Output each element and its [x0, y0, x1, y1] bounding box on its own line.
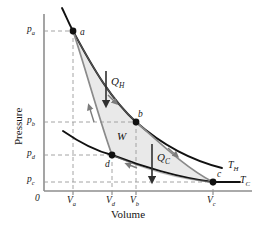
annotation-w: W	[117, 131, 126, 142]
y-tick-pb-sub: b	[32, 120, 35, 127]
state-label-a: a	[80, 28, 85, 38]
state-point-c	[210, 179, 217, 186]
x-tick-vb-sub: b	[136, 200, 139, 207]
x-tick-vc-sub: c	[213, 200, 216, 207]
y-tick-pc-sub: c	[32, 179, 35, 186]
cycle-shaded-region	[73, 31, 213, 182]
x-tick-label-vd: Vd	[106, 196, 115, 207]
state-point-a	[70, 28, 77, 35]
y-tick-label-pa: pa	[27, 25, 35, 36]
x-tick-label-vc: Vc	[207, 196, 216, 207]
w-main: W	[117, 130, 126, 142]
arrowhead-d-to-a	[89, 106, 94, 122]
state-label-b: b	[138, 110, 143, 120]
x-tick-vd-sub: d	[112, 200, 115, 207]
y-tick-pa-sub: a	[32, 29, 35, 36]
qh-main: Q	[111, 75, 119, 87]
isotherm-label-tc: TC	[240, 175, 250, 188]
state-label-d: d	[105, 160, 110, 170]
y-axis-title: Pressure	[13, 108, 24, 145]
x-axis-title: Volume	[111, 209, 145, 220]
state-point-b	[133, 119, 140, 126]
qh-sub: H	[119, 81, 124, 90]
annotation-qc: QC	[157, 152, 170, 166]
state-point-d	[109, 152, 116, 159]
y-tick-pd-sub: d	[32, 153, 35, 160]
annotation-qh: QH	[111, 76, 124, 90]
state-label-c: c	[217, 170, 221, 180]
qc-main: Q	[157, 151, 165, 163]
x-tick-va-sub: a	[73, 200, 76, 207]
carnot-cycle-pv-diagram: Pressure Volume 0 pa pb pd pc Va Vd Vb V…	[0, 0, 265, 229]
isotherm-label-th: TH	[228, 160, 238, 173]
tc-sub: C	[246, 180, 251, 187]
axis-origin-label: 0	[35, 194, 40, 204]
qc-sub: C	[165, 157, 170, 166]
y-tick-label-pc: pc	[27, 175, 35, 186]
x-tick-label-va: Va	[67, 196, 76, 207]
th-sub: H	[234, 165, 239, 172]
x-tick-label-vb: Vb	[130, 196, 139, 207]
y-tick-label-pb: pb	[27, 116, 35, 127]
y-tick-label-pd: pd	[27, 149, 35, 160]
